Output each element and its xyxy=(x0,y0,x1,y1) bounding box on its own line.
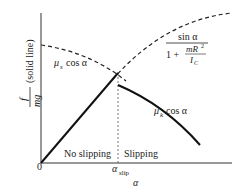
y-label-num: f xyxy=(17,96,29,101)
kinetic-mu: μ xyxy=(153,105,159,116)
rolling-ic-sub: C xyxy=(194,60,199,66)
slipping-label: Slipping xyxy=(124,148,158,159)
static-mu: μ xyxy=(53,57,59,68)
rolling-num: sin α xyxy=(178,31,198,42)
rolling-curve xyxy=(113,13,232,79)
origin-label: 0 xyxy=(37,161,42,172)
static-sub: s xyxy=(60,63,63,71)
rolling-oneplus: 1 + xyxy=(166,49,180,60)
alpha-slip-sub: slip xyxy=(119,169,130,177)
static-rest: cos α xyxy=(66,57,88,68)
rolling-mr: mR xyxy=(186,44,198,54)
y-label-den: mg xyxy=(31,95,42,107)
y-label-suffix: (solid line) xyxy=(24,39,36,83)
kinetic-rest: cos α xyxy=(166,105,188,116)
rolling-exp: 2 xyxy=(201,43,204,49)
friction-diagram: f mg (solid line) 0 α slip α No slipping… xyxy=(0,0,243,193)
no-slipping-label: No slipping xyxy=(64,148,111,159)
x-axis-label: α xyxy=(133,177,139,188)
alpha-slip-label: α xyxy=(112,163,118,174)
